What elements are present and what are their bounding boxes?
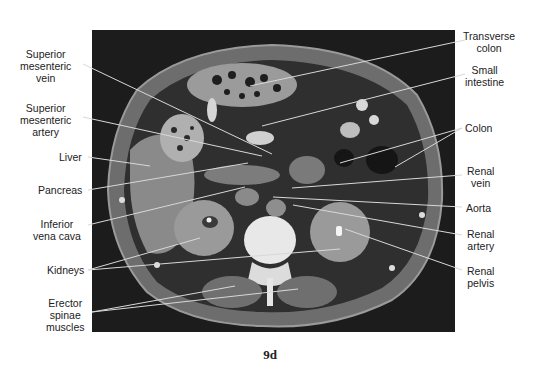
ct-scan-image — [92, 30, 455, 332]
label-renal-vein: Renal vein — [467, 165, 494, 189]
label-small-intestine: Small intestine — [465, 64, 504, 88]
label-liver: Liver — [59, 151, 82, 163]
label-inferior-vena-cava: Inferior vena cava — [33, 218, 81, 242]
label-renal-pelvis: Renal pelvis — [467, 265, 494, 289]
label-colon: Colon — [465, 122, 492, 134]
label-renal-artery: Renal artery — [467, 228, 494, 252]
figure-caption: 9d — [0, 347, 540, 363]
label-aorta: Aorta — [466, 202, 491, 214]
label-erector-spinae-muscles: Erector spinae muscles — [46, 297, 85, 333]
label-superior-mesenteric-vein: Superior mesenteric vein — [20, 48, 71, 84]
label-pancreas: Pancreas — [38, 184, 82, 196]
label-superior-mesenteric-artery: Superior mesenteric artery — [20, 102, 71, 138]
label-kidneys: Kidneys — [47, 264, 84, 276]
label-transverse-colon: Transverse colon — [463, 30, 515, 54]
